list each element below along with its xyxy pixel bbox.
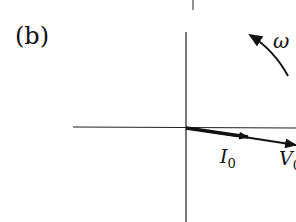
horizontal-axis — [73, 127, 296, 128]
v0-label-subscript: 0 — [293, 158, 296, 173]
i0-label-name: I — [220, 145, 228, 167]
i0-label-subscript: 0 — [228, 156, 236, 171]
v0-label: V0 — [279, 149, 296, 168]
v0-label-name: V — [279, 147, 293, 169]
i0-label: I0 — [220, 147, 236, 166]
omega-label: ω — [273, 31, 289, 51]
i0-phasor-arrow — [186, 128, 248, 137]
panel-label: (b) — [15, 24, 49, 48]
